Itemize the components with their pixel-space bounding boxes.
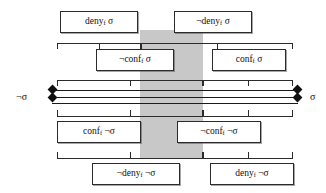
box-not-deny-not-sigma[interactable]: ¬denyf ¬σ [92, 163, 180, 185]
box-deny-sigma[interactable]: denyf σ [60, 11, 138, 33]
axis-line-middle [52, 97, 298, 98]
box-not-conf-sigma-label: ¬conff σ [119, 55, 151, 65]
box-deny-not-sigma[interactable]: denyf ¬σ [210, 163, 294, 185]
box-not-deny-sigma-label: ¬denyf σ [196, 17, 230, 27]
axis-label-left: ¬σ [16, 91, 27, 102]
axis-line-bottom [52, 103, 298, 104]
box-conf-sigma-label: conff σ [236, 55, 263, 65]
box-conf-not-sigma-label: conff ¬σ [83, 127, 115, 137]
box-deny-sigma-label: denyf σ [85, 17, 113, 27]
box-deny-not-sigma-label: denyf ¬σ [235, 169, 269, 179]
box-not-deny-not-sigma-label: ¬denyf ¬σ [117, 169, 156, 179]
axis-marker-left-lower [48, 93, 58, 103]
box-conf-sigma[interactable]: conff σ [212, 49, 286, 71]
box-not-conf-not-sigma[interactable]: ¬conff ¬σ [177, 121, 261, 143]
box-not-conf-sigma[interactable]: ¬conff σ [96, 49, 174, 71]
box-conf-not-sigma[interactable]: conff ¬σ [57, 121, 141, 143]
diagram-canvas: denyf σ ¬denyf σ ¬conff σ conff σ ¬σ σ c… [0, 0, 326, 193]
axis-marker-right-lower [293, 93, 303, 103]
box-not-deny-sigma[interactable]: ¬denyf σ [174, 11, 252, 33]
axis-label-right: σ [310, 91, 315, 102]
box-not-conf-not-sigma-label: ¬conff ¬σ [200, 127, 237, 137]
axis-line-top [52, 90, 298, 91]
